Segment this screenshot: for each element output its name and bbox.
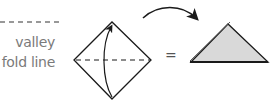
origami-diagram: valley fold line = <box>0 0 275 110</box>
legend-label-valley: valley <box>15 34 55 50</box>
fold-up-arrow-icon <box>104 27 112 97</box>
transition-arrow-icon <box>143 8 196 19</box>
legend-label-fold-line: fold line <box>2 54 55 70</box>
equals-sign: = <box>165 47 177 63</box>
folded-triangle-back-layer <box>191 24 268 62</box>
